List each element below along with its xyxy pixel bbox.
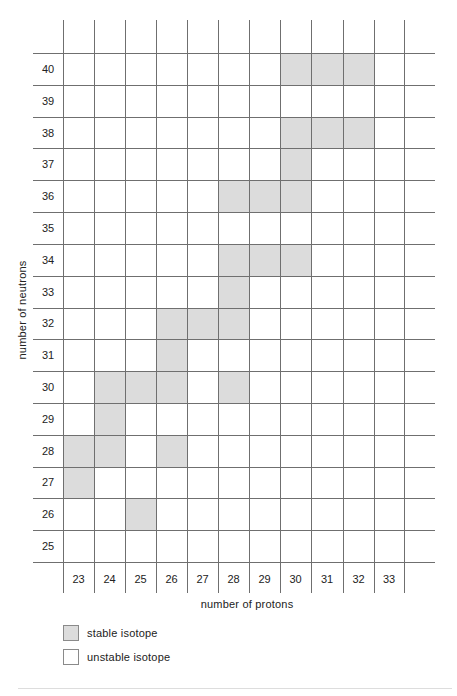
grid-horizontal-line (33, 117, 435, 118)
grid-vertical-line (311, 20, 312, 593)
grid-vertical-line (187, 20, 188, 593)
y-tick-label: 29 (33, 413, 63, 425)
y-tick-label: 35 (33, 222, 63, 234)
stable-swatch-icon (63, 625, 79, 641)
x-tick-label: 29 (249, 573, 280, 585)
grid-horizontal-line (33, 244, 435, 245)
stable-cell (280, 117, 311, 149)
grid-vertical-line (404, 20, 405, 593)
stable-cell (311, 117, 343, 149)
stable-cell (94, 435, 125, 467)
grid-horizontal-line (33, 148, 435, 149)
stable-cell (218, 180, 249, 212)
legend-label-stable: stable isotope (87, 627, 158, 639)
stable-cell (218, 371, 249, 403)
y-tick-label: 32 (33, 317, 63, 329)
stable-cell (343, 53, 374, 85)
grid-horizontal-line (33, 467, 435, 468)
x-tick-label: 31 (311, 573, 343, 585)
grid-horizontal-line (33, 53, 435, 54)
stable-cell (125, 371, 156, 403)
stable-cell (156, 371, 187, 403)
stable-cell (156, 339, 187, 371)
stable-cell (311, 53, 343, 85)
stable-cell (156, 435, 187, 467)
stable-cell (343, 117, 374, 149)
stable-cell (156, 308, 187, 340)
stable-cell (187, 308, 218, 340)
grid-horizontal-line (33, 212, 435, 213)
y-tick-label: 33 (33, 286, 63, 298)
grid-horizontal-line (33, 371, 435, 372)
grid-horizontal-line (33, 530, 435, 531)
stable-cell (63, 467, 94, 499)
grid-vertical-line (63, 20, 64, 593)
stable-cell (249, 244, 280, 276)
stable-cell (94, 403, 125, 435)
stable-cell (280, 244, 311, 276)
x-tick-label: 24 (94, 573, 125, 585)
grid-horizontal-line (33, 308, 435, 309)
x-axis-title: number of protons (187, 598, 307, 610)
x-tick-label: 26 (156, 573, 187, 585)
legend-label-unstable: unstable isotope (87, 651, 170, 663)
grid-horizontal-line (33, 435, 435, 436)
y-tick-label: 30 (33, 381, 63, 393)
grid-vertical-line (94, 20, 95, 593)
x-tick-label: 28 (218, 573, 249, 585)
x-tick-label: 27 (187, 573, 218, 585)
grid-vertical-line (249, 20, 250, 593)
x-tick-label: 33 (374, 573, 404, 585)
legend-item-unstable: unstable isotope (63, 648, 170, 665)
stable-cell (125, 498, 156, 530)
y-tick-label: 34 (33, 254, 63, 266)
stable-cell (218, 308, 249, 340)
grid-vertical-line (280, 20, 281, 593)
legend-item-stable: stable isotope (63, 624, 158, 641)
unstable-swatch-icon (63, 649, 79, 665)
y-tick-label: 38 (33, 127, 63, 139)
grid-horizontal-line (33, 85, 435, 86)
y-axis-title: number of neutrons (16, 261, 28, 360)
y-tick-label: 28 (33, 445, 63, 457)
y-tick-label: 37 (33, 158, 63, 170)
grid-vertical-line (343, 20, 344, 593)
grid-vertical-line (125, 20, 126, 593)
x-tick-label: 30 (280, 573, 311, 585)
grid-horizontal-line (33, 276, 435, 277)
x-tick-label: 23 (63, 573, 94, 585)
stable-cell (280, 53, 311, 85)
stable-cell (280, 180, 311, 212)
isotope-stability-chart: 40393837363534333231302928272625 2324252… (0, 0, 457, 696)
y-tick-label: 27 (33, 476, 63, 488)
stable-cell (94, 371, 125, 403)
y-tick-label: 36 (33, 190, 63, 202)
y-tick-label: 40 (33, 63, 63, 75)
grid-vertical-line (156, 20, 157, 593)
x-tick-label: 25 (125, 573, 156, 585)
y-tick-label: 25 (33, 540, 63, 552)
stable-cell (63, 435, 94, 467)
grid-vertical-line (374, 20, 375, 593)
stable-cell (249, 180, 280, 212)
stable-cell (280, 148, 311, 180)
stable-cell (218, 276, 249, 308)
grid-horizontal-line (33, 562, 435, 563)
y-tick-label: 31 (33, 349, 63, 361)
grid-horizontal-line (33, 339, 435, 340)
y-tick-label: 39 (33, 95, 63, 107)
grid-horizontal-line (33, 180, 435, 181)
y-tick-label: 26 (33, 508, 63, 520)
x-tick-label: 32 (343, 573, 374, 585)
stable-cell (218, 244, 249, 276)
grid-horizontal-line (33, 498, 435, 499)
bottom-divider (18, 688, 452, 689)
grid-vertical-line (218, 20, 219, 593)
grid-horizontal-line (33, 403, 435, 404)
